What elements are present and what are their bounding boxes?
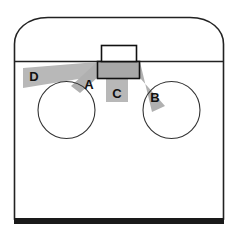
diagram-canvas: D A C B xyxy=(0,0,237,231)
label-a: A xyxy=(84,77,94,92)
technical-diagram: D A C B xyxy=(0,0,237,231)
label-b: B xyxy=(150,90,159,105)
label-d: D xyxy=(29,69,38,84)
upper-box xyxy=(102,46,137,62)
lower-box xyxy=(98,62,140,79)
label-c: C xyxy=(112,86,122,101)
floor-bar xyxy=(14,218,224,224)
